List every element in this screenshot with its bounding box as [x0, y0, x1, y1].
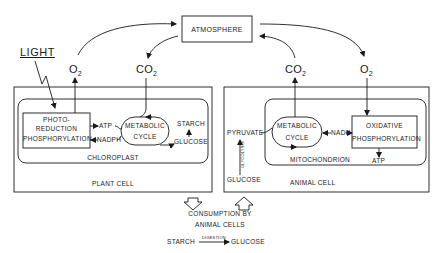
- animal-cycle-line-2: CYCLE: [272, 135, 322, 142]
- photo-box-line-3: PHOSPHORYLATION: [23, 136, 90, 143]
- plant-cell-label: PLANT CELL: [14, 181, 212, 188]
- nadh-label: NADH: [331, 130, 351, 137]
- light-label: LIGHT: [20, 47, 55, 58]
- atmosphere-label: ATMOSPHERE: [182, 26, 252, 33]
- photo-box-line-2: REDUCTION: [23, 126, 90, 133]
- consumption-line-2: ANIMAL CELLS: [170, 222, 270, 229]
- consumption-starch-label: STARCH: [167, 239, 195, 246]
- plant-starch-label: STARCH: [177, 121, 205, 128]
- animal-atp-label: ATP: [372, 158, 385, 165]
- plant-cycle-line-1: METABOLIC: [121, 123, 169, 130]
- animal-cell-label: ANIMAL CELL: [290, 180, 335, 187]
- animal-cycle-line-1: METABOLIC: [272, 123, 322, 130]
- animal-co2-label: CO2: [285, 64, 306, 77]
- animal-o2-label: O2: [360, 64, 373, 77]
- plant-glucose-label: GLUCOSE: [174, 139, 208, 146]
- glycolysis-label: GLYCOLYSIS: [241, 141, 245, 168]
- consumption-glucose-label: GLUCOSE: [231, 239, 265, 246]
- plant-atp-label: ATP: [99, 123, 112, 130]
- digestion-label: DIGESTION: [202, 236, 226, 240]
- consumption-line-1: CONSUMPTION BY: [170, 211, 270, 218]
- animal-glucose-label: GLUCOSE: [227, 177, 261, 184]
- oxidative-box-line-1: OXIDATIVE: [352, 123, 417, 130]
- plant-cycle-line-2: CYCLE: [121, 134, 169, 141]
- plant-to-consumption-arrow: [184, 198, 202, 210]
- oxidative-box: [352, 116, 417, 148]
- oxidative-box-line-2: PHOSPHORYLATION: [352, 136, 417, 143]
- plant-co2-label: CO2: [136, 64, 157, 77]
- consumption-to-animal-arrow: [235, 197, 253, 210]
- photo-box-line-1: PHOTO-: [23, 117, 90, 124]
- plant-nadph-label: NADPH: [97, 137, 121, 144]
- pyruvate-label: PYRUVATE: [227, 130, 263, 137]
- mitochondrion-label: MITOCHONDRION: [290, 157, 350, 164]
- plant-o2-label: O2: [69, 64, 82, 77]
- chloroplast-label: CHLOROPLAST: [18, 155, 208, 162]
